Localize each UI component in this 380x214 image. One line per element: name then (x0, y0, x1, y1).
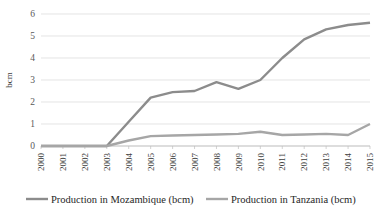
y-axis-tick-label: 0 (30, 141, 35, 151)
x-axis-tick-label: 2002 (80, 153, 90, 171)
x-axis-tick-labels: 2000200120022003200420052006200720082009… (36, 153, 375, 172)
y-axis-tick-labels: 0123456 (30, 9, 35, 151)
x-axis-tick-label: 2009 (234, 153, 244, 172)
gridlines (41, 14, 370, 146)
x-axis-tick-label: 2010 (256, 153, 266, 172)
series-line-2 (41, 124, 370, 146)
chart-canvas: 0123456 bcm 2000200120022003200420052006… (0, 0, 380, 214)
y-axis-title-label: bcm (4, 72, 14, 88)
legend-item-tanzania: Production in Tanzania (bcm) (231, 194, 356, 206)
y-axis-tick-label: 6 (30, 9, 35, 19)
line-chart-figure: 0123456 bcm 2000200120022003200420052006… (0, 0, 380, 214)
x-axis-tick-label: 2005 (146, 153, 156, 172)
x-axis-tick-label: 2006 (168, 153, 178, 172)
x-axis-tick-label: 2004 (124, 153, 134, 172)
x-axis-tick-label: 2008 (212, 153, 222, 172)
y-axis-tick-label: 2 (30, 97, 35, 107)
x-axis-tick-label: 2003 (102, 153, 112, 172)
x-axis-tick-label: 2015 (365, 153, 375, 172)
y-axis-tick-label: 3 (30, 75, 35, 85)
series-line-1 (41, 23, 370, 146)
y-axis-title: bcm (4, 72, 14, 88)
y-axis-tick-label: 1 (30, 119, 35, 129)
y-axis-tick-label: 4 (30, 53, 35, 63)
x-axis-tick-label: 2007 (190, 153, 200, 172)
y-axis-tick-label: 5 (30, 31, 35, 41)
x-axis-tick-label: 2013 (321, 153, 331, 172)
x-axis-tick-label: 2001 (58, 153, 68, 171)
x-axis-tick-label: 2000 (36, 153, 46, 172)
data-series (41, 23, 370, 146)
legend-item-mozambique: Production in Mozambique (bcm) (51, 194, 194, 206)
x-axis-tick-label: 2014 (343, 153, 353, 172)
x-axis-tick-label: 2011 (277, 153, 287, 171)
chart-legend: Production in Mozambique (bcm)Production… (26, 194, 356, 206)
x-axis-tick-label: 2012 (299, 153, 309, 171)
